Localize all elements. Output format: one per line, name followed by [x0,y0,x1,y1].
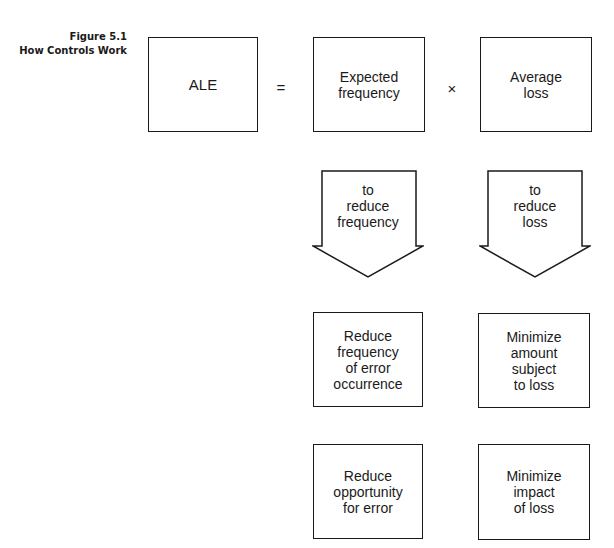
multiply-sign: × [448,80,457,97]
reduce-frequency-arrow: to reduce frequency [312,170,424,280]
minimize-amount-box: Minimize amount subject to loss [478,313,590,408]
reduce-frequency-label: to reduce frequency [312,182,424,230]
figure-caption: Figure 5.1 How Controls Work [19,30,127,58]
reduce-error-frequency-box: Reduce frequency of error occurrence [313,312,423,407]
expected-frequency-box: Expected frequency [313,37,425,132]
average-loss-box: Average loss [480,37,592,132]
reduce-opportunity-box: Reduce opportunity for error [313,444,423,539]
average-loss-label: Average loss [510,69,562,101]
minimize-impact-box: Minimize impact of loss [478,444,590,540]
reduce-loss-label: to reduce loss [479,182,591,230]
reduce-opportunity-label: Reduce opportunity for error [333,468,402,516]
reduce-loss-arrow: to reduce loss [479,170,591,280]
figure-title: How Controls Work [19,44,127,58]
figure-number: Figure 5.1 [19,30,127,44]
expected-frequency-label: Expected frequency [338,69,399,101]
reduce-error-frequency-label: Reduce frequency of error occurrence [333,328,402,392]
ale-box: ALE [148,37,258,132]
minimize-amount-label: Minimize amount subject to loss [506,329,561,393]
equals-sign: = [277,79,286,96]
minimize-impact-label: Minimize impact of loss [506,468,561,516]
ale-label: ALE [189,77,217,93]
